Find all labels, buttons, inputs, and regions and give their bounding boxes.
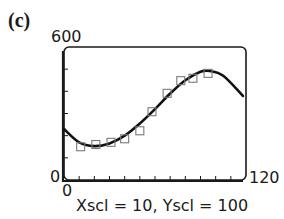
scale-caption: Xscl = 10, Yscl = 100 [76,197,248,215]
model-curve [64,71,243,147]
plot-frame [63,47,246,181]
graph-window [0,0,284,219]
data-point-marker [136,127,144,135]
y-max-label: 600 [51,29,82,45]
y-min-label: 0 [50,169,60,185]
x-max-label: 120 [249,170,280,186]
data-point-markers [77,69,212,150]
x-min-label: 0 [62,183,72,199]
axis-ticks [64,69,231,180]
